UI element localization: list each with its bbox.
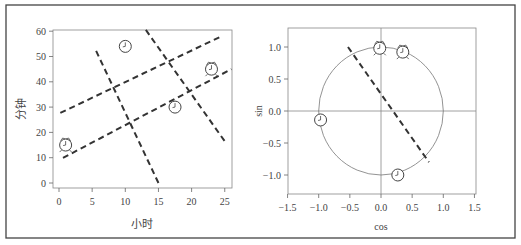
- y-tick-label: 10: [36, 152, 46, 163]
- left-y-axis-title: 分钟: [14, 98, 27, 120]
- x-tick-label: 1.0: [437, 202, 450, 213]
- y-tick-label: 30: [36, 102, 46, 113]
- clock-icon: [315, 114, 327, 126]
- y-tick-label: 0.5: [269, 74, 282, 85]
- alarm-clock-icon: [374, 41, 386, 55]
- clock-icon: [169, 101, 181, 113]
- figure-svg: 0510152025 0102030405060 小时 分钟 −1.5−1.0−…: [0, 0, 521, 245]
- x-tick-label: 1.5: [468, 202, 481, 213]
- y-tick-label: −1.0: [263, 170, 281, 181]
- y-tick-label: −0.5: [263, 138, 281, 149]
- x-tick-label: 15: [153, 196, 163, 207]
- alarm-clock-icon: [397, 45, 409, 59]
- y-tick-label: 1.0: [269, 42, 282, 53]
- x-tick-label: 0: [57, 196, 62, 207]
- y-tick-label: 50: [36, 51, 46, 62]
- x-tick-label: 20: [187, 196, 197, 207]
- x-tick-label: 10: [120, 196, 130, 207]
- clock-icon: [392, 169, 404, 181]
- left-x-axis-title: 小时: [131, 218, 153, 230]
- x-tick-label: 0.0: [375, 202, 388, 213]
- alarm-clock-icon: [60, 138, 72, 152]
- x-tick-label: −1.5: [278, 202, 296, 213]
- x-tick-label: −0.5: [341, 202, 359, 213]
- y-tick-label: 40: [36, 76, 46, 87]
- x-tick-label: 25: [220, 196, 230, 207]
- y-tick-label: 0: [41, 178, 46, 189]
- y-tick-label: 60: [36, 26, 46, 37]
- x-tick-label: 0.5: [406, 202, 419, 213]
- figure: 0510152025 0102030405060 小时 分钟 −1.5−1.0−…: [0, 0, 521, 245]
- right-x-axis-title: cos: [374, 221, 387, 232]
- x-tick-label: −1.0: [310, 202, 328, 213]
- alarm-clock-icon: [205, 62, 217, 76]
- x-tick-label: 5: [90, 196, 95, 207]
- right-y-axis-title: sin: [253, 105, 264, 117]
- clock-icon: [119, 40, 131, 52]
- y-tick-label: 0.0: [269, 106, 282, 117]
- y-tick-label: 20: [36, 127, 46, 138]
